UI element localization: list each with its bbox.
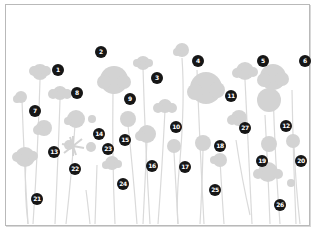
callout-marker: 7 [29,105,41,117]
callout-marker: 3 [151,72,163,84]
callout-marker: 18 [214,140,226,152]
callout-marker: 8 [71,87,83,99]
callout-marker: 26 [274,199,286,211]
callout-marker: 1 [52,64,64,76]
callout-marker: 12 [280,120,292,132]
callout-marker: 21 [31,193,43,205]
callout-marker: 20 [295,155,307,167]
callout-marker: 6 [299,55,311,67]
callout-marker: 10 [170,121,182,133]
callout-marker: 19 [256,155,268,167]
callout-marker: 5 [257,55,269,67]
callout-marker: 17 [179,161,191,173]
callout-marker: 14 [93,128,105,140]
callout-marker: 9 [124,93,136,105]
callout-marker: 16 [146,160,158,172]
callout-marker: 27 [239,122,251,134]
callout-marker: 2 [95,46,107,58]
callout-marker: 4 [192,55,204,67]
callout-marker: 24 [117,178,129,190]
callout-marker: 23 [102,143,114,155]
callout-marker: 11 [225,90,237,102]
callout-marker: 25 [209,184,221,196]
flower-illustration [0,0,318,233]
callout-marker: 22 [69,163,81,175]
callout-marker: 15 [119,134,131,146]
callout-marker: 13 [48,146,60,158]
